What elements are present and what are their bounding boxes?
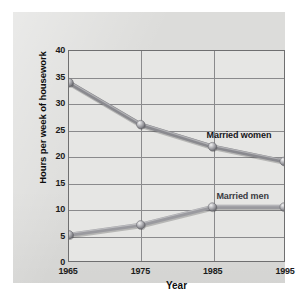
- data-point-marker: [208, 142, 216, 150]
- data-point-marker: [280, 157, 284, 165]
- plot-area: Married womenMarried men: [68, 50, 285, 262]
- x-axis-tick-label: 1985: [203, 266, 222, 276]
- x-axis-tick-label: 1965: [58, 266, 77, 276]
- x-axis-tick-label: 1975: [131, 266, 150, 276]
- series-label-married-women: Married women: [207, 130, 272, 140]
- series-line-highlight: [69, 81, 284, 160]
- y-axis-tick-label: 5: [31, 231, 65, 241]
- x-axis-tick-label: 1995: [275, 266, 294, 276]
- chart-card: 0510152025303540 Hours per week of house…: [13, 12, 285, 283]
- data-point-marker: [137, 120, 145, 128]
- x-axis-tick-labels: 1965197519851995: [68, 266, 285, 280]
- series-line: [69, 207, 284, 235]
- data-point-marker: [208, 203, 216, 211]
- series-label-married-men: Married men: [216, 191, 268, 201]
- x-axis-title: Year: [68, 280, 285, 291]
- data-point-marker: [137, 221, 145, 229]
- y-axis-title: Hours per week of housework: [37, 23, 48, 213]
- plot-inner: Married womenMarried men: [69, 51, 284, 261]
- series-line-shadow: [70, 83, 284, 162]
- series-line: [69, 83, 284, 162]
- chart-figure: 0510152025303540 Hours per week of house…: [0, 0, 299, 301]
- series-layer: [69, 51, 284, 261]
